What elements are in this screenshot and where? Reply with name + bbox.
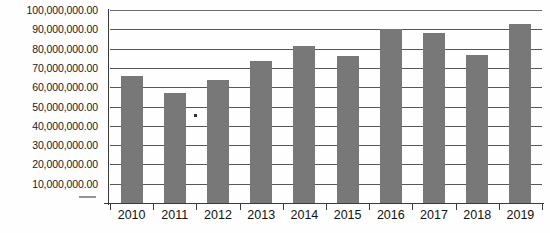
x-axis-tick-label: 2013 <box>247 208 275 222</box>
y-axis-tick-label: 10,000,000.00 <box>32 178 98 189</box>
x-axis-tick-label: 2014 <box>290 208 318 222</box>
y-axis-tick-label: 20,000,000.00 <box>32 159 98 170</box>
bar[interactable] <box>121 76 143 203</box>
bar-slot <box>499 10 542 203</box>
bar[interactable] <box>423 33 445 203</box>
bar[interactable] <box>250 61 272 203</box>
bar[interactable] <box>466 55 488 203</box>
bar-slot <box>153 10 196 203</box>
bar-slot <box>196 10 239 203</box>
bar[interactable] <box>293 46 315 203</box>
bar-slot <box>283 10 326 203</box>
x-axis-tick-label: 2018 <box>463 208 491 222</box>
bar-slot <box>456 10 499 203</box>
y-axis-tick-label: 90,000,000.00 <box>32 24 98 35</box>
bar-slot <box>326 10 369 203</box>
y-axis-tick-label: 30,000,000.00 <box>32 140 98 151</box>
x-axis-tick-label: 2011 <box>161 208 188 222</box>
x-axis-tick-label: 2012 <box>204 208 232 222</box>
y-axis-tick-label: 60,000,000.00 <box>32 82 98 93</box>
y-axis-baseline-dash <box>79 197 96 198</box>
bar-slot <box>369 10 412 203</box>
y-axis-tick-label: 40,000,000.00 <box>32 120 98 131</box>
y-axis-tick-label: 100,000,000.00 <box>26 5 98 16</box>
bar-chart: 10,000,000.0020,000,000.0030,000,000.004… <box>0 0 550 233</box>
bar-slot <box>412 10 455 203</box>
x-axis-tick-label: 2015 <box>334 208 362 222</box>
x-axis-tick <box>542 203 543 210</box>
y-axis-tick-label: 70,000,000.00 <box>32 62 98 73</box>
scan-artifact-speck <box>194 114 197 117</box>
x-axis-labels: 2010201120122013201420152016201720182019 <box>110 208 542 232</box>
bar[interactable] <box>509 24 531 203</box>
y-axis-tick-label: 50,000,000.00 <box>32 101 98 112</box>
bar-series <box>110 10 542 203</box>
y-axis-labels: 10,000,000.0020,000,000.0030,000,000.004… <box>0 0 104 233</box>
y-axis-line <box>108 9 109 205</box>
x-axis-tick-label: 2016 <box>377 208 405 222</box>
x-axis-tick-label: 2019 <box>506 208 534 222</box>
x-axis-tick-label: 2010 <box>118 208 146 222</box>
bar[interactable] <box>337 56 359 203</box>
bar[interactable] <box>164 93 186 203</box>
x-axis-tick-label: 2017 <box>420 208 448 222</box>
bar-slot <box>110 10 153 203</box>
bar-slot <box>240 10 283 203</box>
y-axis-tick-label: 80,000,000.00 <box>32 43 98 54</box>
bar[interactable] <box>207 80 229 203</box>
bar[interactable] <box>380 29 402 203</box>
